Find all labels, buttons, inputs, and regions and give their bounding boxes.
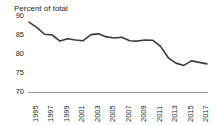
data-series-line xyxy=(29,22,207,65)
y-tick-label: 75 xyxy=(16,69,24,77)
plot-svg xyxy=(29,16,207,92)
x-tick-label: 1999 xyxy=(63,105,71,122)
x-axis-line xyxy=(28,92,208,93)
y-tick-label: 80 xyxy=(16,50,24,58)
x-tick-label: 1997 xyxy=(47,105,55,122)
x-tick-label: 2001 xyxy=(78,105,86,122)
y-tick-label: 70 xyxy=(16,88,24,96)
x-tick-label: 2009 xyxy=(140,105,148,122)
x-tick-label: 2003 xyxy=(94,105,102,122)
x-tick-label: 2017 xyxy=(202,105,210,122)
line-chart: Percent of total 9085807570 199519971999… xyxy=(0,0,217,125)
x-tick-label: 2011 xyxy=(156,106,164,122)
x-tick-label: 2005 xyxy=(109,105,117,122)
x-tick-label: 2007 xyxy=(125,105,133,122)
x-axis: 1995199719992001200320052007200920112013… xyxy=(29,94,209,124)
x-tick-label: 1995 xyxy=(32,105,40,122)
plot-area xyxy=(29,16,207,92)
y-tick-label: 90 xyxy=(16,12,24,20)
x-tick-label: 2015 xyxy=(187,105,195,122)
y-axis: 9085807570 xyxy=(0,14,28,98)
y-tick-label: 85 xyxy=(16,31,24,39)
x-tick-label: 2013 xyxy=(171,105,179,122)
